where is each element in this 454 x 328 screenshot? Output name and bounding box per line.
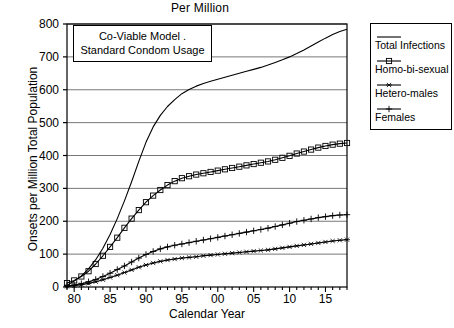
legend-sample-none-icon <box>375 28 415 39</box>
annotation-box: Co-Viable Model . Standard Condom Usage <box>73 25 212 62</box>
legend-sample-square-icon <box>375 52 415 63</box>
legend-item[interactable]: Hetero-males <box>371 76 451 100</box>
annotation-line-1: Co-Viable Model . <box>76 29 209 43</box>
legend-sample-plus-icon <box>375 100 415 111</box>
legend-sample-asterisk-icon <box>375 76 415 87</box>
chart-root: Per Million Onsets per Million Total Pop… <box>0 0 454 328</box>
legend-item[interactable]: Homo-bi-sexual <box>371 52 451 76</box>
series-hetero-males <box>64 238 350 289</box>
series-line <box>67 240 347 287</box>
series-line <box>67 29 347 285</box>
legend-item[interactable]: Females <box>371 100 451 124</box>
legend-item[interactable]: Total Infections <box>371 28 451 52</box>
series-line <box>67 143 347 283</box>
series-homo-bi-sexual <box>64 140 349 285</box>
legend-entries: Total InfectionsHomo-bi-sexualHetero-mal… <box>371 28 451 124</box>
series-line <box>67 215 347 286</box>
annotation-line-2: Standard Condom Usage <box>76 43 209 57</box>
series-total-infections <box>67 29 347 285</box>
legend: Total InfectionsHomo-bi-sexualHetero-mal… <box>370 23 452 130</box>
